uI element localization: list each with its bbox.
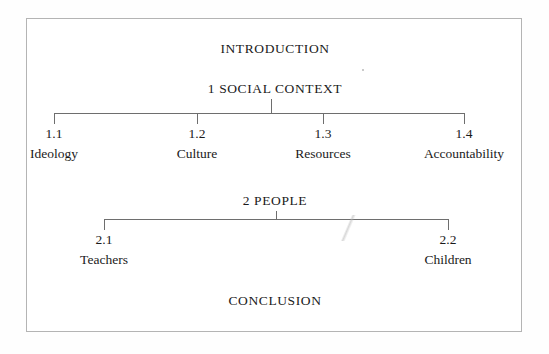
connector-tick-2-2 [448, 219, 449, 230]
heading-conclusion: CONCLUSION [27, 293, 523, 309]
node-number-1-3: 1.3 [283, 126, 363, 141]
figure-border: INTRODUCTION 1 SOCIAL CONTEXT 1.1 Ideolo… [26, 18, 522, 332]
connector-bar-section-1 [54, 113, 464, 114]
connector-tick-1-2 [197, 113, 198, 124]
connector-tick-1-1 [54, 113, 55, 124]
connector-stem-section-2 [276, 211, 277, 219]
node-number-2-1: 2.1 [64, 232, 144, 247]
node-number-1-1: 1.1 [14, 126, 94, 141]
node-label-1-2: Culture [157, 146, 237, 161]
node-label-1-3: Resources [283, 146, 363, 161]
connector-tick-1-4 [464, 113, 465, 124]
node-number-2-2: 2.2 [408, 232, 488, 247]
connector-tick-2-1 [104, 219, 105, 230]
scan-speck [362, 69, 364, 71]
figure-container: INTRODUCTION 1 SOCIAL CONTEXT 1.1 Ideolo… [0, 0, 549, 354]
connector-stem-section-1 [271, 99, 272, 113]
connector-bar-section-2 [104, 219, 448, 220]
heading-section-2: 2 PEOPLE [27, 193, 523, 209]
connector-tick-1-3 [323, 113, 324, 124]
heading-introduction: INTRODUCTION [27, 41, 523, 57]
node-number-1-2: 1.2 [157, 126, 237, 141]
node-label-2-1: Teachers [64, 252, 144, 267]
heading-section-1: 1 SOCIAL CONTEXT [27, 81, 523, 97]
node-number-1-4: 1.4 [409, 126, 519, 141]
node-label-1-4: Accountability [409, 146, 519, 161]
node-label-2-2: Children [408, 252, 488, 267]
node-label-1-1: Ideology [14, 146, 94, 161]
